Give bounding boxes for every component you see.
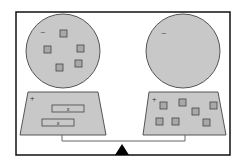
right-circle-sign: − [161,28,166,38]
left-negative-circle [26,14,100,88]
right-tray-sign: + [152,95,157,104]
unit-tile [210,102,217,109]
unit-tile [156,118,163,125]
left-circle-sign: − [40,27,45,37]
unit-tile [192,108,199,115]
unit-tile [44,46,51,53]
right-negative-circle [146,14,220,88]
unit-tile [179,99,186,106]
x-bar-label: x [56,120,60,126]
unit-tile [56,64,63,71]
unit-tile [77,45,84,52]
unit-tile [60,30,67,37]
x-bar-label: x [66,106,70,112]
unit-tile [172,118,179,125]
left-tray-sign: + [30,94,35,103]
unit-tile [75,60,82,67]
unit-tile [203,119,210,126]
balance-diagram: − + x x − + [0,0,240,167]
unit-tile [160,102,167,109]
